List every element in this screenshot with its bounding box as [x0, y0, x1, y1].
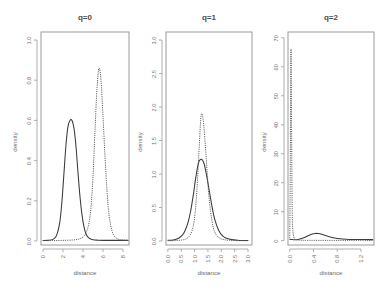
- xtick-label-1-6: 3.0: [245, 255, 251, 263]
- yaxis-title-q0: density: [11, 131, 18, 152]
- panel-title-q2: q=2: [324, 13, 339, 22]
- ytick-label-2-6: 60: [273, 64, 279, 70]
- ytick-label-0-5: 1.0: [26, 37, 32, 45]
- xtick-label-2-3: 1.2: [358, 255, 364, 263]
- ytick-label-2-3: 30: [273, 151, 279, 157]
- xtick-label-0-2: 4: [80, 255, 86, 258]
- yaxis-title-q2: density: [260, 131, 267, 152]
- curve-q2-dashed: [290, 49, 373, 240]
- ytick-label-1-1: 0.5: [151, 204, 157, 212]
- xtick-label-1-0: 0.0: [165, 255, 171, 263]
- ytick-label-2-5: 50: [273, 93, 279, 99]
- xtick-label-1-3: 1.5: [205, 255, 211, 263]
- ytick-label-0-2: 0.4: [26, 157, 32, 165]
- xtick-label-0-3: 6: [100, 255, 106, 258]
- curve-q1-solid: [168, 159, 248, 240]
- panel-q2: q=2 distance density 0.00.40.81.20102030…: [260, 13, 374, 276]
- xtick-label-1-1: 0.5: [178, 255, 184, 263]
- panel-title-q1: q=1: [202, 13, 217, 22]
- panel-q0: q=0 distance density 024680.00.20.40.60.…: [11, 13, 129, 276]
- xaxis-title-q0: distance: [73, 269, 97, 276]
- ytick-label-1-5: 2.5: [151, 70, 157, 78]
- ytick-label-2-2: 20: [273, 180, 279, 186]
- panel-q2-plotarea: 0.00.40.81.2010203040506070: [273, 32, 374, 263]
- curve-q1-dashed: [168, 114, 248, 241]
- curve-q2-solid: [290, 233, 373, 239]
- ytick-label-2-7: 70: [273, 35, 279, 41]
- xaxis-title-q2: distance: [319, 269, 343, 276]
- xtick-label-1-4: 2.0: [218, 255, 224, 263]
- xtick-label-0-4: 8: [120, 255, 126, 258]
- yaxis-title-q1: density: [136, 131, 143, 152]
- xtick-label-1-5: 2.5: [232, 255, 238, 263]
- plot-box-2: [288, 32, 374, 245]
- curve-q0-solid: [43, 120, 128, 241]
- ytick-label-1-0: 0.0: [151, 238, 157, 246]
- xtick-label-1-2: 1.0: [192, 255, 198, 263]
- ytick-label-2-4: 40: [273, 122, 279, 128]
- curve-q0-dashed: [43, 68, 128, 241]
- xtick-label-2-1: 0.4: [311, 255, 317, 263]
- ytick-label-0-3: 0.6: [26, 117, 32, 125]
- xtick-label-0-1: 2: [60, 255, 66, 258]
- xaxis-title-q1: distance: [197, 269, 221, 276]
- ytick-label-0-4: 0.8: [26, 77, 32, 85]
- ytick-label-1-3: 1.5: [151, 137, 157, 145]
- ytick-label-1-2: 1.0: [151, 171, 157, 179]
- panel-title-q0: q=0: [78, 13, 93, 22]
- density-plot-figure: q=0 distance density 024680.00.20.40.60.…: [0, 0, 392, 299]
- ytick-label-1-6: 3.0: [151, 37, 157, 45]
- panel-q1: q=1 distance density 0.00.51.01.52.02.53…: [136, 13, 252, 276]
- xtick-label-2-2: 0.8: [334, 255, 340, 263]
- xtick-label-2-0: 0.0: [287, 255, 293, 263]
- ytick-label-2-1: 10: [273, 209, 279, 215]
- ytick-label-0-1: 0.2: [26, 197, 32, 205]
- plot-box-0: [41, 32, 129, 245]
- plot-box-1: [166, 32, 252, 245]
- ytick-label-1-4: 2.0: [151, 104, 157, 112]
- ytick-label-2-0: 0: [273, 240, 279, 243]
- panel-q1-plotarea: 0.00.51.01.52.02.53.00.00.51.01.52.02.53…: [151, 32, 252, 263]
- panel-q0-plotarea: 024680.00.20.40.60.81.0: [26, 32, 129, 258]
- xtick-label-0-0: 0: [40, 255, 46, 258]
- ytick-label-0-0: 0.0: [26, 238, 32, 246]
